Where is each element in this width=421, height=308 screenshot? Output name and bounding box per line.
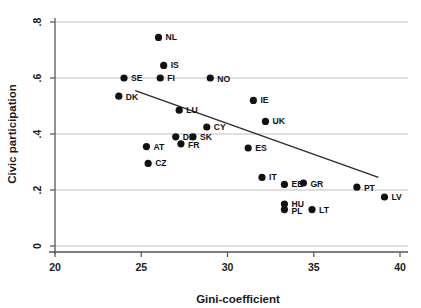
point-marker-LT xyxy=(308,206,315,213)
y-tick-label-.4: .4 xyxy=(31,129,43,138)
point-label-SE: SE xyxy=(131,73,143,83)
data-point-EE: EE xyxy=(281,179,303,189)
data-point-PT: PT xyxy=(353,183,375,193)
point-label-CZ: CZ xyxy=(155,158,166,168)
point-marker-CZ xyxy=(145,160,152,167)
data-point-IT: IT xyxy=(258,172,277,182)
x-tick-label-40: 40 xyxy=(394,261,406,273)
x-tick-label-25: 25 xyxy=(135,261,147,273)
point-marker-IE xyxy=(250,97,257,104)
point-label-LV: LV xyxy=(391,192,402,202)
point-marker-FR xyxy=(177,140,184,147)
point-label-DK: DK xyxy=(126,92,139,102)
data-point-LU: LU xyxy=(176,105,198,115)
y-axis-title: Civic participation xyxy=(6,84,18,184)
point-label-NO: NO xyxy=(217,74,230,84)
data-point-CY: CY xyxy=(203,122,226,132)
data-point-IS: IS xyxy=(160,60,179,70)
point-marker-IS xyxy=(160,62,167,69)
x-tick-label-20: 20 xyxy=(49,261,61,273)
point-marker-PL xyxy=(281,206,288,213)
point-marker-LV xyxy=(381,193,388,200)
point-label-FR: FR xyxy=(188,140,200,150)
point-marker-AT xyxy=(143,143,150,150)
data-point-PL: PL xyxy=(281,206,303,216)
point-label-CY: CY xyxy=(214,122,226,132)
point-marker-NL xyxy=(155,34,162,41)
point-marker-GR xyxy=(300,179,307,186)
point-marker-DE xyxy=(172,133,179,140)
point-label-PL: PL xyxy=(291,206,302,216)
x-tick-labels: 2025303540 xyxy=(49,261,406,273)
data-point-LT: LT xyxy=(308,205,329,215)
data-point-FR: FR xyxy=(177,140,200,150)
point-marker-SE xyxy=(120,74,127,81)
data-point-LV: LV xyxy=(381,192,402,202)
gridlines xyxy=(55,22,408,246)
point-label-UK: UK xyxy=(272,116,285,126)
y-tick-label-.8: .8 xyxy=(31,17,43,26)
tick-marks xyxy=(50,22,400,257)
data-point-CZ: CZ xyxy=(145,158,167,168)
point-marker-FI xyxy=(157,74,164,81)
x-tick-label-30: 30 xyxy=(222,261,234,273)
point-marker-CY xyxy=(203,123,210,130)
data-points: NLISSEFINODKIELUUKCYDESKFRATESCZITEEGRPT… xyxy=(115,32,402,215)
point-label-LU: LU xyxy=(186,105,197,115)
point-marker-EE xyxy=(281,181,288,188)
point-label-LT: LT xyxy=(319,205,330,215)
point-label-PT: PT xyxy=(364,183,376,193)
scatter-chart: 2025303540 0.2.4.6.8 NLISSEFINODKIELUUKC… xyxy=(0,0,421,308)
data-point-DK: DK xyxy=(115,92,139,102)
point-label-IT: IT xyxy=(269,172,277,182)
data-point-IE: IE xyxy=(250,95,269,105)
point-marker-PT xyxy=(353,184,360,191)
point-marker-NO xyxy=(207,74,214,81)
data-point-GR: GR xyxy=(300,179,324,189)
point-marker-LU xyxy=(176,107,183,114)
y-tick-labels: 0.2.4.6.8 xyxy=(31,17,43,248)
point-label-SK: SK xyxy=(200,132,213,142)
y-tick-label-.2: .2 xyxy=(31,185,43,194)
axis-lines xyxy=(49,18,408,254)
data-point-AT: AT xyxy=(143,142,165,152)
plot-area: 2025303540 0.2.4.6.8 NLISSEFINODKIELUUKC… xyxy=(0,0,421,308)
data-point-NO: NO xyxy=(207,74,231,84)
point-label-NL: NL xyxy=(166,32,177,42)
y-tick-label-0: 0 xyxy=(31,243,43,249)
point-label-FI: FI xyxy=(167,73,175,83)
data-point-UK: UK xyxy=(262,116,286,126)
point-marker-DK xyxy=(115,93,122,100)
y-tick-label-.6: .6 xyxy=(31,73,43,82)
point-marker-UK xyxy=(262,118,269,125)
data-point-NL: NL xyxy=(155,32,177,42)
point-label-IE: IE xyxy=(260,95,268,105)
x-tick-label-35: 35 xyxy=(308,261,320,273)
point-marker-ES xyxy=(245,144,252,151)
point-label-IS: IS xyxy=(171,60,179,70)
data-point-ES: ES xyxy=(245,143,267,153)
point-marker-IT xyxy=(258,174,265,181)
point-label-ES: ES xyxy=(255,143,267,153)
point-label-GR: GR xyxy=(310,179,324,189)
data-point-SE: SE xyxy=(120,73,142,83)
point-label-AT: AT xyxy=(153,142,165,152)
x-axis-title: Gini-coefficient xyxy=(196,293,280,305)
